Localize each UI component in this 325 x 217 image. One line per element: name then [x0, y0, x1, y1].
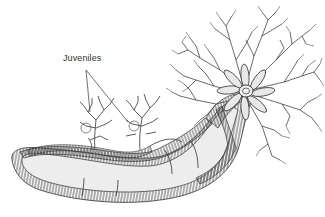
body — [12, 94, 252, 202]
label-pointers — [86, 70, 128, 122]
sea-cucumber-drawing — [0, 0, 325, 217]
juvenile-left — [80, 96, 114, 150]
illustration: Juveniles — [0, 0, 325, 217]
juvenile-right — [126, 94, 160, 150]
mouth — [239, 85, 253, 97]
juveniles-label: Juveniles — [63, 53, 101, 63]
